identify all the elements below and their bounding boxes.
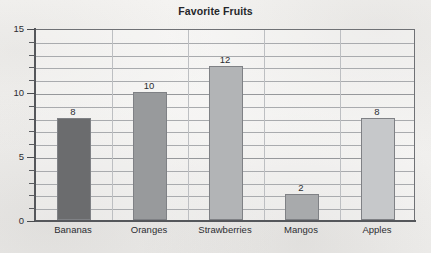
y-axis-tick [29, 195, 35, 196]
bar-value-label: 10 [129, 80, 169, 91]
bar-value-label: 2 [281, 182, 321, 193]
y-axis-tick [29, 67, 35, 68]
y-axis-tick [29, 183, 35, 184]
y-axis-tick [27, 93, 35, 94]
category-separator [264, 30, 265, 220]
chart-page: Favorite Fruits 051015 BananasOrangesStr… [0, 0, 431, 253]
y-axis-label: 5 [0, 151, 24, 162]
y-axis-tick [29, 119, 35, 120]
category-separator [188, 30, 189, 220]
y-axis-label: 0 [0, 215, 24, 226]
y-axis-tick [29, 80, 35, 81]
gridline [36, 43, 414, 44]
y-axis-label: 10 [0, 87, 24, 98]
y-axis-label: 15 [0, 23, 24, 34]
chart-title: Favorite Fruits [0, 5, 431, 17]
y-axis-tick [29, 170, 35, 171]
y-axis-tick [29, 42, 35, 43]
y-axis-tick [27, 157, 35, 158]
y-axis-tick [29, 106, 35, 107]
y-axis-tick [29, 55, 35, 56]
y-axis-line [34, 28, 36, 222]
y-axis-tick [27, 29, 35, 30]
category-separator [340, 30, 341, 220]
bar-value-label: 8 [357, 106, 397, 117]
y-axis-tick [29, 144, 35, 145]
x-axis-label-apples: Apples [327, 224, 427, 235]
bar-strawberries [209, 66, 243, 220]
bar-bananas [57, 118, 91, 220]
bar-value-label: 8 [53, 106, 93, 117]
y-axis-tick [29, 131, 35, 132]
x-axis-line [34, 220, 416, 222]
bar-mangos [285, 194, 319, 220]
bar-value-label: 12 [205, 54, 245, 65]
bar-apples [361, 118, 395, 220]
category-separator [112, 30, 113, 220]
y-axis-tick [27, 221, 35, 222]
y-axis-tick [29, 208, 35, 209]
bar-oranges [133, 92, 167, 220]
